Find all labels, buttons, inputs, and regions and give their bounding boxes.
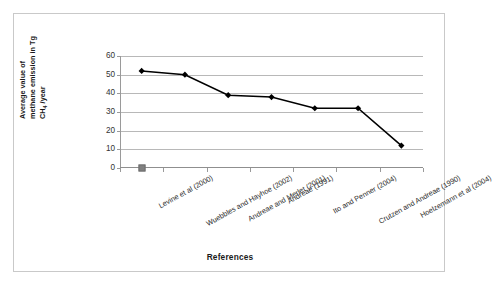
x-axis-title: References — [14, 252, 446, 262]
series-polyline — [142, 71, 402, 146]
data-point-marker — [312, 105, 318, 111]
y-axis-tick-label: 30 — [106, 108, 115, 116]
x-axis-category-labels: Levine et al (2000)Wuebbles and Hayhoe (… — [120, 172, 423, 246]
square-data-point-marker — [138, 165, 145, 172]
series-line-group — [120, 56, 423, 168]
y-axis-tick-label: 10 — [106, 145, 115, 153]
y-axis-tick-label: 40 — [106, 89, 115, 97]
x-axis-category-label: Levine et al (2000) — [157, 174, 213, 210]
y-axis-tick-label: 50 — [106, 71, 115, 79]
data-point-marker — [225, 92, 231, 98]
methane-subscript: 4 — [42, 105, 48, 108]
x-axis-tick — [423, 168, 424, 172]
y-axis-title-line-1: Average value of — [18, 61, 28, 119]
plot-area: 0102030405060 — [120, 56, 423, 168]
y-axis-title: Average value of methane emission in Tg … — [13, 0, 53, 119]
data-point-marker — [139, 68, 145, 74]
y-axis-tick-label: 0 — [110, 164, 115, 172]
chart-container: Average value of methane emission in Tg … — [13, 13, 445, 272]
data-point-marker — [268, 94, 274, 100]
data-point-marker — [182, 72, 188, 78]
y-axis-tick-label: 20 — [106, 127, 115, 135]
x-axis-category-label: Ito and Penner (2004) — [332, 174, 398, 215]
y-axis-title-line-2: methane emission in Tg — [28, 36, 38, 119]
y-axis-title-line-3: CH4 /year — [38, 86, 48, 119]
y-axis-tick-label: 60 — [106, 52, 115, 60]
